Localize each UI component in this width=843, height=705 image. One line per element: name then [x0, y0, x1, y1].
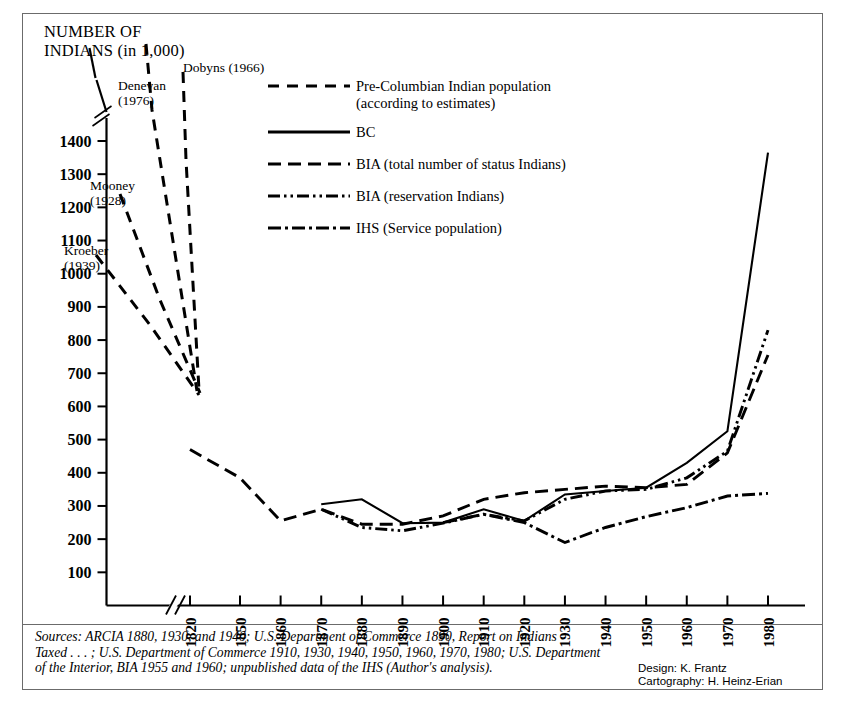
estimate-label-dobyns: Dobyns (1966) [183, 60, 264, 75]
svg-text:600: 600 [68, 398, 92, 415]
legend-swatch-dash-dot-dot [268, 191, 356, 207]
svg-text:1200: 1200 [60, 199, 92, 216]
legend-item-4: IHS (Service population) [268, 220, 668, 239]
svg-text:100: 100 [68, 564, 92, 581]
svg-text:700: 700 [68, 365, 92, 382]
svg-text:300: 300 [68, 497, 92, 514]
estimate-label-mooney: Mooney (1928) [90, 178, 135, 208]
legend-item-3: BIA (reservation Indians) [268, 188, 668, 207]
svg-text:1300: 1300 [60, 166, 92, 183]
legend-swatch-dash-dot [268, 223, 356, 239]
chart-figure: NUMBER OF INDIANS (in 1,000) 10020030040… [0, 0, 843, 705]
sources-box: Sources: ARCIA 1880, 1930, and 1940; U.S… [23, 624, 822, 690]
legend-label: Pre-Columbian Indian population (accordi… [356, 78, 551, 111]
legend-label: BIA (reservation Indians) [356, 188, 504, 205]
legend-swatch-solid [268, 127, 356, 143]
svg-text:400: 400 [68, 464, 92, 481]
svg-text:500: 500 [68, 431, 92, 448]
svg-text:900: 900 [68, 298, 92, 315]
legend-swatch-dashed-medium [268, 159, 356, 175]
legend-item-0: Pre-Columbian Indian population (accordi… [268, 78, 668, 111]
legend-item-2: BIA (total number of status Indians) [268, 156, 668, 175]
legend-label: BC [356, 124, 375, 141]
svg-text:200: 200 [68, 531, 92, 548]
svg-text:800: 800 [68, 332, 92, 349]
sources-text: Sources: ARCIA 1880, 1930, and 1940; U.S… [35, 629, 625, 676]
svg-text:1400: 1400 [60, 133, 92, 150]
legend-swatch-dashed-long [268, 81, 356, 97]
credit-text: Design: K. Frantz Cartography: H. Heinz-… [638, 662, 818, 688]
estimate-label-denevan: Denevan (1976) [118, 78, 166, 108]
legend-label: BIA (total number of status Indians) [356, 156, 566, 173]
legend-item-1: BC [268, 124, 668, 143]
legend-label: IHS (Service population) [356, 220, 502, 237]
estimate-label-kroeber: Kroeber (1939) [64, 243, 108, 273]
legend: Pre-Columbian Indian population (accordi… [268, 78, 668, 252]
